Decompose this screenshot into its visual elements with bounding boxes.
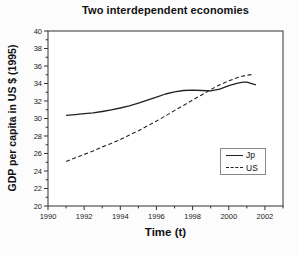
legend-entry-us: US [226, 163, 265, 174]
y-tick-label: 20 [34, 202, 42, 211]
x-tick-label: 2000 [220, 212, 237, 221]
legend-label: Jp [246, 151, 255, 160]
x-tick-label: 1990 [40, 212, 57, 221]
y-tick-label: 36 [34, 62, 42, 71]
plot-frame [48, 31, 283, 206]
x-tick-label: 2002 [257, 212, 274, 221]
y-tick-label: 30 [34, 114, 42, 123]
legend-label: US [246, 164, 258, 173]
y-tick-label: 32 [34, 97, 42, 106]
y-tick-label: 22 [34, 184, 42, 193]
y-tick-label: 28 [34, 132, 42, 141]
dashed-line-sample-icon [226, 167, 243, 168]
legend-entry-jp: Jp [226, 150, 265, 161]
x-tick-label: 1996 [148, 212, 165, 221]
chart-figure: Two interdependent economies GDP per cap… [0, 0, 298, 256]
solid-line-sample-icon [226, 155, 243, 156]
x-axis-title: Time (t) [48, 226, 283, 238]
y-tick-label: 34 [34, 79, 42, 88]
plot-area: 1990199219941996199820002002202224262830… [0, 0, 298, 256]
y-tick-label: 40 [34, 27, 42, 36]
y-tick-label: 24 [34, 167, 42, 176]
x-tick-label: 1998 [184, 212, 201, 221]
legend: JpUS [220, 148, 266, 175]
x-tick-label: 1994 [112, 212, 129, 221]
y-tick-label: 38 [34, 44, 42, 53]
x-tick-label: 1992 [76, 212, 93, 221]
y-tick-label: 26 [34, 149, 42, 158]
